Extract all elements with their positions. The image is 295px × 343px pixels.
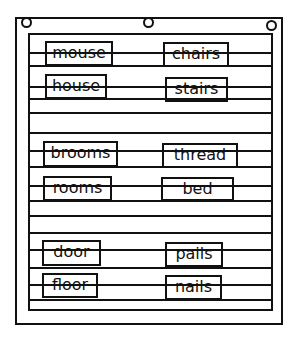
word-label: brooms	[51, 145, 111, 161]
word-card-mouse: mouse	[45, 41, 113, 66]
word-card-bed: bed	[161, 177, 234, 201]
word-card-house: house	[45, 74, 107, 99]
word-label: chairs	[172, 46, 220, 62]
word-card-thread: thread	[162, 143, 238, 168]
pocket-line	[28, 267, 273, 269]
pocket-line	[28, 299, 273, 301]
hole-icon	[21, 17, 32, 28]
word-label: floor	[52, 277, 88, 293]
pocket-line	[28, 215, 273, 217]
word-label: bed	[182, 181, 212, 197]
hole-icon	[266, 20, 277, 31]
hole-icon	[143, 17, 154, 28]
word-card-stairs: stairs	[165, 77, 228, 102]
word-label: stairs	[175, 81, 219, 97]
pocket-line	[28, 112, 273, 114]
word-label: pails	[175, 246, 212, 262]
word-card-nails: nails	[165, 275, 222, 300]
word-label: rooms	[53, 180, 103, 196]
pocket-line	[28, 132, 273, 134]
word-card-pails: pails	[165, 242, 223, 267]
word-card-brooms: brooms	[43, 141, 118, 167]
word-card-rooms: rooms	[43, 176, 112, 201]
word-label: nails	[175, 279, 212, 295]
word-label: mouse	[52, 45, 106, 61]
word-label: house	[52, 78, 100, 94]
word-card-door: door	[42, 240, 101, 266]
word-label: door	[53, 244, 89, 260]
word-card-floor: floor	[42, 273, 98, 298]
word-card-chairs: chairs	[163, 42, 229, 67]
pocket-line	[28, 232, 273, 234]
word-label: thread	[174, 147, 226, 163]
